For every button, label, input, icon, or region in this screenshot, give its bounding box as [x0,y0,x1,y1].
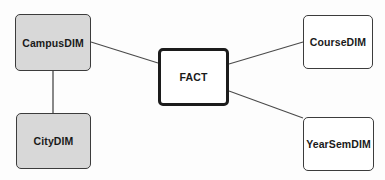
entity-label-campus-dim: CampusDIM [22,37,84,49]
edge-campus-fact [91,42,158,63]
edge-fact-yearsem [229,91,303,118]
entity-node-campus-dim[interactable]: CampusDIM [15,14,91,71]
entity-node-city-dim[interactable]: CityDIM [16,113,91,169]
entity-label-city-dim: CityDIM [34,135,74,147]
er-diagram-canvas: CampusDIM CityDIM FACT CourseDIM YearSem… [0,0,385,180]
entity-label-course-dim: CourseDIM [310,36,366,48]
entity-node-course-dim[interactable]: CourseDIM [303,15,373,69]
entity-node-yearsem-dim[interactable]: YearSemDIM [303,117,374,171]
edge-fact-course [229,42,303,64]
entity-label-yearsem-dim: YearSemDIM [306,138,371,150]
entity-node-fact[interactable]: FACT [158,48,229,106]
entity-label-fact: FACT [180,71,208,83]
